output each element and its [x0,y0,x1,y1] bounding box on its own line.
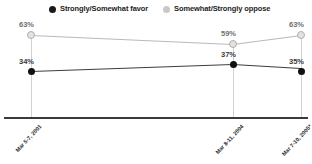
data-label-oppose: 59% [221,30,236,38]
gridline-3 [301,35,302,118]
data-label-oppose: 63% [19,21,34,29]
data-label-favor: 35% [289,58,304,66]
x-axis-tick-label-2: Mar 8-11, 2004 [211,124,245,160]
plot-area: 63% 59% 63% 34% 37% 35% Mar 5-7, 2001 Ma… [0,0,312,164]
data-point-favor [28,68,35,75]
series-line-oppose-2 [233,35,301,45]
chart-container: Strongly/Somewhat favor Somewhat/Strongl… [0,0,312,164]
data-point-favor [230,61,237,68]
data-label-favor: 34% [19,58,34,66]
data-point-oppose [297,31,305,39]
gridline-1 [31,35,32,118]
x-axis-tick-label-3: Mar 7-10, 2005* [279,124,312,160]
data-label-favor: 37% [221,51,236,59]
x-axis-line [4,117,308,119]
data-point-oppose [229,40,237,48]
series-line-oppose-1 [31,35,233,45]
data-label-oppose: 63% [289,21,304,29]
data-point-oppose [27,31,35,39]
series-line-favor-1 [31,64,233,72]
x-axis-tick-label-1: Mar 5-7, 2001 [9,124,43,160]
data-point-favor [298,68,305,75]
